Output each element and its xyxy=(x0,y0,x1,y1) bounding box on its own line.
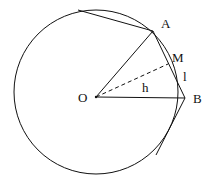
label-B: B xyxy=(193,91,202,106)
label-A: A xyxy=(161,16,171,31)
diagram-svg: O A B M h l xyxy=(0,0,211,180)
label-M: M xyxy=(172,50,184,65)
label-l: l xyxy=(183,69,187,84)
tangent-line-upper xyxy=(78,10,153,31)
point-O xyxy=(95,96,97,98)
circle xyxy=(14,10,178,174)
height-OM-dashed xyxy=(96,64,168,97)
geometry-diagram: O A B M h l xyxy=(0,0,211,180)
tangent-line-lower xyxy=(156,98,185,155)
segment-OB xyxy=(96,97,185,98)
label-O: O xyxy=(78,90,87,105)
label-h: h xyxy=(142,80,149,95)
